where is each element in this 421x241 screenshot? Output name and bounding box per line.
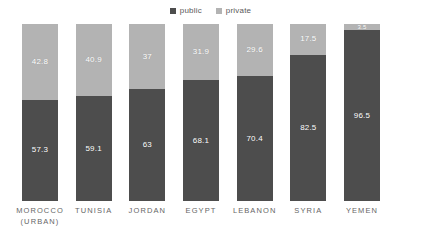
bar-group: 29.670.4 — [237, 24, 273, 201]
bar-segment-public[interactable]: 59.1 — [76, 96, 112, 201]
category-label-line: EGYPT — [173, 205, 229, 216]
bar-segment-private[interactable]: 17.5 — [290, 24, 326, 55]
bar-value-label: 31.9 — [193, 48, 209, 56]
bar-stack: 40.959.1 — [76, 24, 112, 201]
category-label-line: TUNISIA — [66, 205, 122, 216]
bar-segment-public[interactable]: 57.3 — [22, 100, 58, 201]
category-axis: MOROCCO(URBAN)TUNISIAJORDANEGYPTLEBANONS… — [0, 205, 421, 241]
bar-value-label: 17.5 — [300, 35, 316, 43]
bar-value-label: 57.3 — [32, 146, 48, 154]
bar-segment-public[interactable]: 82.5 — [290, 55, 326, 201]
category-label: MOROCCO(URBAN) — [12, 205, 68, 227]
category-label: EGYPT — [173, 205, 229, 216]
bar-value-label: 82.5 — [300, 124, 316, 132]
bar-group: 17.582.5 — [290, 24, 326, 201]
category-label: LEBANON — [227, 205, 283, 216]
bar-segment-public[interactable]: 96.5 — [344, 30, 380, 201]
stacked-bar-chart: public private 42.857.340.959.1376331.96… — [0, 0, 421, 241]
square-marker-icon — [170, 8, 176, 14]
bar-value-label: 42.8 — [32, 58, 48, 66]
category-label-line: (URBAN) — [12, 216, 68, 227]
bar-stack: 17.582.5 — [290, 24, 326, 201]
bar-segment-private[interactable]: 29.6 — [237, 24, 273, 76]
category-label: SYRIA — [280, 205, 336, 216]
category-label: JORDAN — [119, 205, 175, 216]
bar-segment-private[interactable]: 31.9 — [183, 24, 219, 80]
plot-area: 42.857.340.959.1376331.968.129.670.417.5… — [0, 24, 421, 201]
category-label-line: JORDAN — [119, 205, 175, 216]
legend-item-public[interactable]: public — [170, 7, 202, 15]
bar-value-label: 29.6 — [246, 46, 262, 54]
category-label-line: MOROCCO — [12, 205, 68, 216]
category-label: TUNISIA — [66, 205, 122, 216]
bar-stack: 3763 — [129, 24, 165, 201]
bar-stack: 31.968.1 — [183, 24, 219, 201]
bar-segment-public[interactable]: 70.4 — [237, 76, 273, 201]
bar-stack: 3.596.5 — [344, 24, 380, 201]
bar-segment-private[interactable]: 37 — [129, 24, 165, 89]
bar-segment-private[interactable]: 42.8 — [22, 24, 58, 100]
bar-segment-public[interactable]: 68.1 — [183, 80, 219, 201]
square-marker-icon — [216, 8, 222, 14]
legend-item-label: public — [180, 7, 202, 15]
bar-value-label: 68.1 — [193, 137, 209, 145]
category-label-line: LEBANON — [227, 205, 283, 216]
bar-value-label: 59.1 — [85, 145, 101, 153]
chart-legend: public private — [0, 4, 421, 18]
bar-value-label: 63 — [143, 141, 152, 149]
bar-group: 3763 — [129, 24, 165, 201]
legend-item-label: private — [226, 7, 251, 15]
bar-group: 42.857.3 — [22, 24, 58, 201]
bar-segment-public[interactable]: 63 — [129, 89, 165, 201]
bar-value-label: 96.5 — [354, 112, 370, 120]
bar-stack: 29.670.4 — [237, 24, 273, 201]
category-label-line: SYRIA — [280, 205, 336, 216]
category-label: YEMEN — [334, 205, 390, 216]
legend-item-private[interactable]: private — [216, 7, 251, 15]
bar-value-label: 37 — [143, 53, 152, 61]
bar-segment-private[interactable]: 40.9 — [76, 24, 112, 96]
bar-value-label: 40.9 — [85, 56, 101, 64]
bar-group: 31.968.1 — [183, 24, 219, 201]
bar-value-label: 3.5 — [358, 24, 367, 30]
category-label-line: YEMEN — [334, 205, 390, 216]
bar-value-label: 70.4 — [246, 135, 262, 143]
bar-stack: 42.857.3 — [22, 24, 58, 201]
bar-group: 40.959.1 — [76, 24, 112, 201]
bar-group: 3.596.5 — [344, 24, 380, 201]
